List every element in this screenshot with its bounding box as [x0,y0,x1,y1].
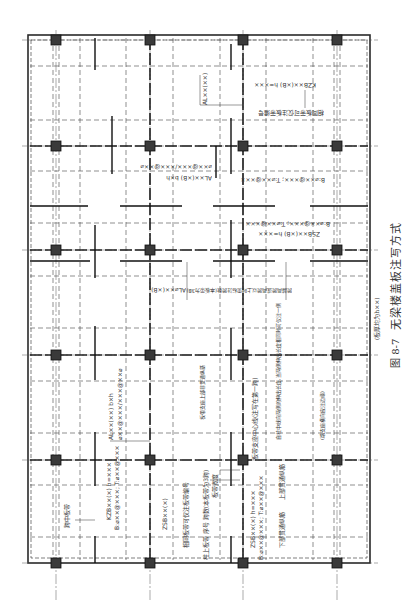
figure-title: 无梁楼盖板注写方式 [387,222,403,330]
band-width-note: 板带宽度 [212,474,218,498]
al-bottom-label: AL××(××) b×h [108,393,114,440]
zsb-mid-rebar: B:⌀××@×××; T:⌀××@××× [245,221,330,227]
bottom-rebar-note: 下部贯通纵筋 [279,512,285,548]
span-band-label: 跨中板带 [64,504,70,528]
al-mid-label: AL××(×B) b×h [166,175,212,181]
leader-lines [75,75,305,520]
kzb-top-label: KZB××(×B) h=××× [254,82,316,88]
strip-lines-horizontal [30,66,368,537]
kzb-mid-label: B:⌀××@×××; T:⌀××@××× [240,177,325,183]
al-note: AL⌀××(×B) [151,287,186,293]
zsb-mid-label: ZSB××(×B) h=××× [258,231,320,237]
zsb-bottom-label-2: ZSB××(×) h=××× [250,490,256,548]
zsb-bottom-label: ZSB××(×) [162,498,168,530]
extend-length-note: 自柱中线向两侧的伸出长度,当两侧伸出长度相同时可仅注一侧 [276,303,281,440]
kzb-note-top: 相同板带可仅注板带编号 [258,110,324,116]
kzb-bottom-label: KZB××(×) h=××× [106,462,112,520]
figure-note: (板厚均为h××) [372,297,381,340]
top-rebar-note: 上部贯通纵筋 [279,464,285,500]
col-band-seq-note: 柱上板带 序号 跨数(本板带为3跨) [203,470,209,560]
al-mid-rebar: ⌀××@×××/×××@××⌀ [140,164,212,170]
same-band-note: 相同板带可仅注板带编号 [183,482,189,548]
figure-number: 图 8-7 [387,339,402,368]
al-cross-note: 跨越两跨或两跨以上时需标注跨数(本板带为3B) [186,288,292,293]
kzb-bottom-rebar: B:⌀××@×××; T:⌀××@××× [114,445,120,530]
zsb-bottom-rebar: B:⌀××@×××; T:⌀××@××× [258,475,264,560]
edge-note: (端支座横向应注边缘) [320,391,325,440]
al-top-label: AL××(××) [202,73,208,105]
support-rebar-note: 板带支座上部非贯通纵筋 [200,365,205,420]
al-bottom-rebar: ⌀××@×××/×××@××⌀ [117,368,123,440]
center-line-note: 板带支座中心线(注写在第一跨) [252,377,258,460]
axis-lines [22,30,378,600]
